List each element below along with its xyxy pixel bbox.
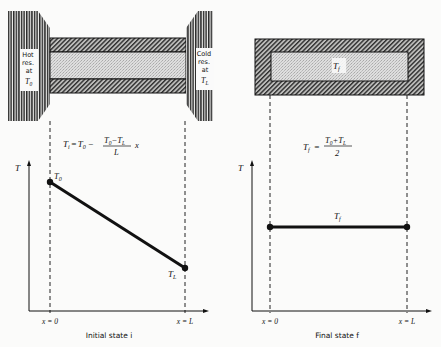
x-end-label: x = L <box>398 317 415 326</box>
svg-text:Ti=T0−: Ti=T0− <box>63 139 94 150</box>
svg-text:T0+TL: T0+TL <box>325 135 346 146</box>
initial-graph: T T0 TL x = 0 x = L Initial state i <box>15 160 209 340</box>
line-label: Tf <box>334 211 342 222</box>
cold-line3: at <box>202 66 209 74</box>
final-equation: Tf= T0+TL 2 <box>303 135 352 158</box>
svg-text:2: 2 <box>335 148 340 158</box>
start-point <box>267 224 273 230</box>
x-axis-arrow <box>203 309 209 313</box>
initial-equation: Ti=T0− T0−TL L x <box>63 135 139 157</box>
rod-insulation-top <box>50 38 186 52</box>
svg-text:x: x <box>134 140 139 150</box>
left-apparatus: Hot res. at T0 Cold res. at TL <box>8 11 214 121</box>
hot-line3: at <box>26 67 33 75</box>
x-end-label: x = L <box>176 317 193 326</box>
end-point <box>404 224 410 230</box>
cold-line1: Cold <box>197 50 211 58</box>
svg-text:Tf=: Tf= <box>303 142 320 153</box>
cold-line2: res. <box>198 58 210 66</box>
diagram-canvas: Hot res. at T0 Cold res. at TL Ti=T0− T0… <box>0 0 441 347</box>
rod-insulation-bottom <box>50 79 186 93</box>
initial-caption: Initial state i <box>86 331 133 340</box>
hot-line2: res. <box>22 59 34 67</box>
start-point <box>47 179 53 185</box>
svg-text:L: L <box>113 147 119 157</box>
hot-line1: Hot <box>22 51 34 59</box>
y-axis-arrow <box>250 160 254 166</box>
end-point-label: TL <box>168 269 177 280</box>
initial-temperature-line <box>50 182 185 268</box>
final-graph: T Tf x = 0 x = L Final state f <box>238 160 432 340</box>
x-start-label: x = 0 <box>41 317 58 326</box>
final-caption: Final state f <box>315 331 359 340</box>
y-axis-label: T <box>15 163 21 173</box>
rod-core <box>50 52 186 79</box>
y-axis-arrow <box>27 160 31 166</box>
right-apparatus: Tf <box>255 39 424 95</box>
x-axis-arrow <box>426 309 432 313</box>
y-axis-label: T <box>238 163 244 173</box>
x-start-label: x = 0 <box>261 317 278 326</box>
start-point-label: T0 <box>54 171 62 182</box>
end-point <box>182 265 188 271</box>
svg-text:T0−TL: T0−TL <box>104 135 125 146</box>
